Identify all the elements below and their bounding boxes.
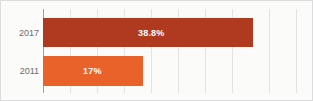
bar-2011[interactable]: 17% [43, 56, 143, 86]
plot-area: 2017 38.8% 2011 17% [1, 1, 313, 101]
bar-chart: 2017 38.8% 2011 17% [0, 0, 313, 101]
bar-value-label-2017: 38.8% [138, 28, 165, 38]
bar-row-2017: 2017 38.8% [1, 18, 313, 47]
category-label-2017: 2017 [5, 28, 39, 38]
bar-value-label-2011: 17% [83, 66, 102, 76]
category-label-2011: 2011 [5, 66, 39, 76]
bar-row-2011: 2011 17% [1, 56, 313, 86]
bar-2017[interactable]: 38.8% [43, 18, 253, 47]
